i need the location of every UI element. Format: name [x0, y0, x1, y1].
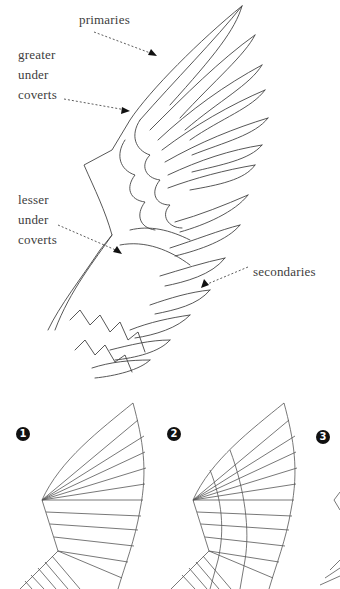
construction-diagrams: [0, 0, 340, 589]
step-badge-1: 1: [16, 427, 30, 441]
step-badge-2: 2: [167, 427, 181, 441]
step-badge-3: 3: [316, 430, 330, 444]
